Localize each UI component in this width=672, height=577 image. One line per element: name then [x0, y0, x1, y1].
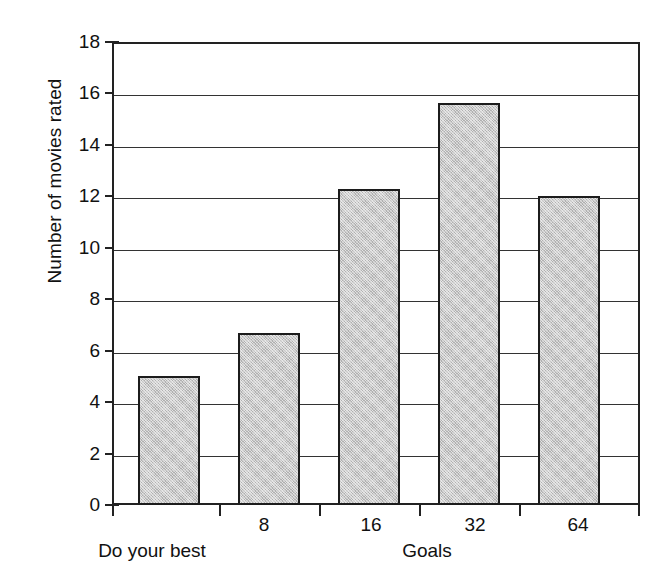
x-tick-label-64: 64 [567, 514, 588, 536]
bar-32 [438, 103, 500, 506]
bar-8 [238, 333, 300, 505]
x-tick-label-32: 32 [464, 514, 485, 536]
bar-series [112, 42, 640, 505]
bar-16 [338, 189, 400, 505]
y-tick-label: 4 [89, 391, 100, 413]
bar-64 [538, 196, 600, 505]
y-axis-ticks: 18 16 14 12 10 8 6 4 2 0 [0, 42, 112, 505]
y-tick-label: 0 [89, 494, 100, 516]
y-tick-label: 10 [79, 237, 100, 259]
y-tick-label: 6 [89, 340, 100, 362]
x-group-caption-do-your-best: Do your best [98, 540, 206, 562]
x-tick-label-16: 16 [360, 514, 381, 536]
y-tick-label: 14 [79, 134, 100, 156]
x-axis-group-captions: Do your best Goals [0, 540, 672, 572]
x-axis-title: Goals [402, 540, 452, 562]
y-tick-label: 2 [89, 443, 100, 465]
y-tick-label: 16 [79, 82, 100, 104]
bar-do-your-best [138, 376, 200, 505]
y-tick-label: 12 [79, 185, 100, 207]
x-tick-label-8: 8 [259, 514, 270, 536]
bar-chart: Number of movies rated 18 16 14 12 10 8 … [0, 0, 672, 577]
y-tick-label: 18 [79, 31, 100, 53]
y-tick-label: 8 [89, 288, 100, 310]
